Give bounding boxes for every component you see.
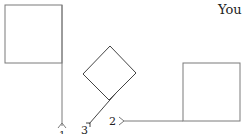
flag-3-label: 3 [81,124,88,134]
flag-2-square [183,63,240,121]
flags-diagram: 1 3 2 You [0,0,246,134]
flag-2-label: 2 [109,115,116,128]
flag-3-diamond [83,46,136,100]
flag-1-label: 1 [59,129,65,134]
flag-1-square [5,5,62,63]
you-label: You [217,2,242,17]
flag-1: 1 [5,5,66,134]
flag-2: 2 [109,63,240,128]
flag-2-pole-tip [119,117,124,125]
